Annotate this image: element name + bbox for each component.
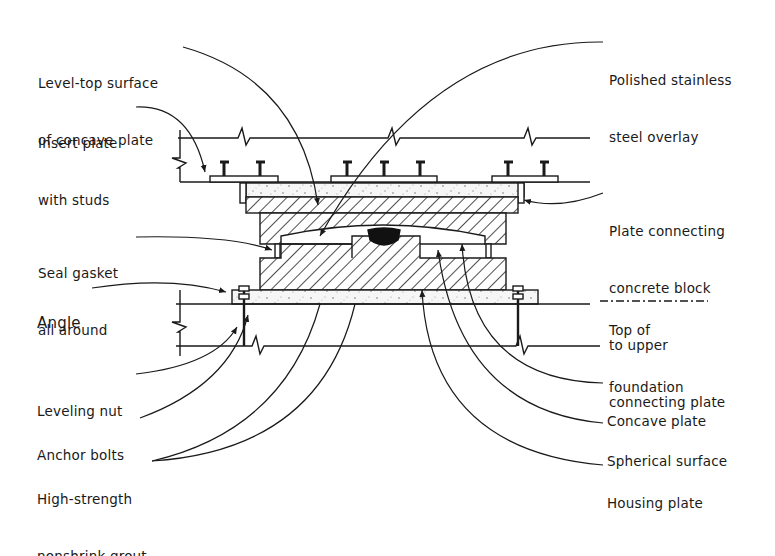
- seal-gasket-left: [275, 244, 280, 258]
- label-angle: Angle: [37, 276, 81, 352]
- label-grout: High-strength nonshrink grout above and …: [37, 452, 155, 556]
- isolator-section-diagram: Level-top surface of concave plate Inser…: [0, 0, 775, 556]
- seal-gasket-right: [486, 244, 491, 258]
- articulated-slider: [368, 228, 400, 245]
- upper-slab-outline: [172, 128, 590, 182]
- upper-angle-left: [240, 183, 246, 203]
- insert-plates: [210, 162, 558, 182]
- lower-grout-layer: [232, 290, 538, 304]
- label-housing-plate: Housing plate: [607, 456, 703, 532]
- connecting-plate: [246, 197, 518, 213]
- label-insert-plate: Insert plate with studs: [38, 96, 118, 229]
- upper-grout-layer: [246, 183, 524, 197]
- upper-angle-right: [518, 183, 524, 203]
- label-polished-overlay: Polished stainless steel overlay: [609, 33, 732, 166]
